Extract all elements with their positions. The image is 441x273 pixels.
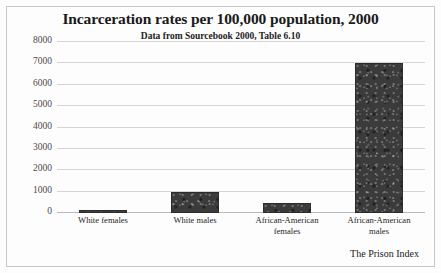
bar[interactable] xyxy=(79,210,127,213)
bar[interactable] xyxy=(171,192,219,213)
y-axis-tick-label: 6000 xyxy=(4,79,52,89)
bars-layer xyxy=(57,41,425,213)
y-axis-tick-label: 0 xyxy=(4,207,52,217)
category-label: White males xyxy=(149,215,241,226)
bar-slot xyxy=(57,41,149,213)
category-label: African-Americanfemales xyxy=(241,215,333,237)
y-axis-tick-label: 5000 xyxy=(4,100,52,110)
bar-slot xyxy=(333,41,425,213)
bar[interactable] xyxy=(263,203,311,213)
category-label-line: African-American xyxy=(333,215,425,226)
y-axis: 800070006000500040003000200010000 xyxy=(0,41,52,212)
category-label-line: White females xyxy=(57,215,149,226)
category-label-line: African-American xyxy=(241,215,333,226)
bar-slot xyxy=(149,41,241,213)
chart-container: Incarceration rates per 100,000 populati… xyxy=(0,0,441,273)
category-label-line: White males xyxy=(149,215,241,226)
y-axis-tick-label: 3000 xyxy=(4,143,52,153)
category-label-line: males xyxy=(333,226,425,237)
y-axis-tick-label: 7000 xyxy=(4,57,52,67)
bar[interactable] xyxy=(355,63,403,213)
category-label: African-Americanmales xyxy=(333,215,425,237)
category-label: White females xyxy=(57,215,149,226)
y-axis-tick-label: 8000 xyxy=(4,36,52,46)
y-axis-tick-label: 1000 xyxy=(4,186,52,196)
y-axis-tick-label: 4000 xyxy=(4,122,52,132)
bar-slot xyxy=(241,41,333,213)
chart-title: Incarceration rates per 100,000 populati… xyxy=(0,10,441,28)
y-axis-tick-label: 2000 xyxy=(4,164,52,174)
category-label-line: females xyxy=(241,226,333,237)
source-note: The Prison Index xyxy=(350,248,419,259)
chart-subtitle: Data from Sourcebook 2000, Table 6.10 xyxy=(0,31,441,41)
